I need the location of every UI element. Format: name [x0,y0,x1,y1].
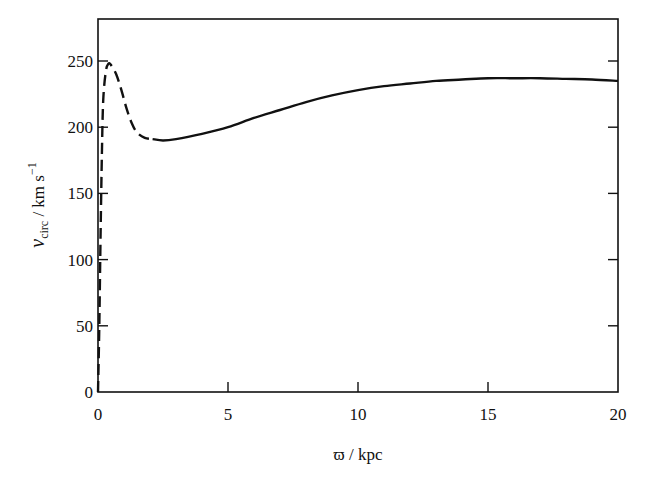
y-tick-label: 50 [76,317,93,336]
tick-labels: 05101520050100150200250 [68,52,627,424]
x-tick-label: 10 [350,405,367,424]
x-tick-label: 0 [94,405,103,424]
y-axis-label: vcirc / km s−1 [25,162,51,247]
plot-frame [98,19,618,392]
outer-solid-curve [153,78,618,140]
x-axis-label: ϖ / kpc [334,445,383,464]
y-tick-label: 150 [68,184,94,203]
axis-ticks [98,61,618,392]
y-tick-label: 0 [85,383,94,402]
x-tick-label: 15 [480,405,497,424]
y-tick-label: 200 [68,118,94,137]
y-tick-label: 250 [68,52,94,71]
axes-box [98,19,618,392]
y-tick-label: 100 [68,251,94,270]
rotation-curve-chart: 05101520050100150200250 ϖ / kpc vcirc / … [0,0,650,482]
x-tick-label: 20 [610,405,627,424]
x-tick-label: 5 [224,405,233,424]
data-curves [98,63,618,392]
inner-dashed-curve [98,63,153,392]
